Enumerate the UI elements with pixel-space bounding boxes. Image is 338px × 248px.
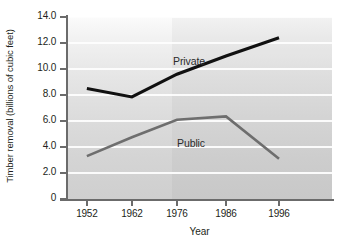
y-axis-tick [60,42,66,43]
series-container [67,17,332,199]
y-axis-tick-label: 10.0 [16,62,56,73]
y-axis-tick [60,94,66,95]
timber-removal-line-chart: Timber removal (billions of cubic feet) … [0,0,338,248]
y-axis-tick-label: 4.0 [16,140,56,151]
y-axis-tick-label: 0 [16,192,56,203]
y-axis-line [66,15,68,201]
y-axis-tick [60,172,66,173]
x-axis-tick [131,200,132,206]
x-axis-line [60,199,334,201]
series-label-private: Private [173,55,205,67]
x-axis-tick [176,200,177,206]
y-axis-tick-label: 8.0 [16,88,56,99]
x-axis-tick [225,200,226,206]
y-axis-tick [60,68,66,69]
y-axis-tick-label: 6.0 [16,114,56,125]
y-axis-tick [60,16,66,17]
x-axis-title: Year [67,226,332,237]
x-axis-tick [86,200,87,206]
y-axis-tick [60,146,66,147]
x-axis-tick-label: 1996 [249,208,309,219]
series-label-public: Public [177,137,205,149]
y-axis-tick-label: 14.0 [16,10,56,21]
series-line-private [87,38,279,97]
x-axis-tick-label: 1986 [196,208,256,219]
x-axis-tick [278,200,279,206]
plot-area: Private Public [67,17,332,199]
y-axis-tick [60,198,66,199]
y-axis-tick-label: 12.0 [16,36,56,47]
y-axis-tick [60,120,66,121]
y-axis-tick-label: 2.0 [16,166,56,177]
